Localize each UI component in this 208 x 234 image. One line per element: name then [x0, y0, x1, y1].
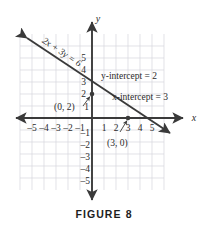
x-tick--5: –5 — [26, 123, 37, 133]
x-tick-labels-positive: 1 2 3 4 5 — [102, 123, 155, 133]
coordinate-graph: y x –5 –4 –3 –2 –1 1 2 3 4 5 5 4 3 2 1 –… — [0, 0, 208, 234]
x-tick-3: 3 — [126, 123, 131, 133]
x-tick--2: –2 — [62, 123, 73, 133]
point-label-3-0: (3, 0) — [107, 138, 128, 149]
y-tick-labels-negative: –1 –2 –3 –4 –5 — [80, 128, 91, 186]
x-tick-5: 5 — [150, 123, 155, 133]
y-tick-3: 3 — [81, 77, 86, 87]
x-tick-4: 4 — [138, 123, 143, 133]
x-axis-label: x — [191, 112, 197, 123]
y-tick--5: –5 — [80, 176, 91, 186]
y-tick--4: –4 — [80, 164, 91, 174]
y-intercept-annotation: y-intercept = 2 — [101, 71, 157, 81]
figure-container: y x –5 –4 –3 –2 –1 1 2 3 4 5 5 4 3 2 1 –… — [0, 0, 208, 234]
x-tick-labels-negative: –5 –4 –3 –2 –1 — [26, 123, 85, 133]
point-marker-3-0 — [126, 116, 131, 121]
y-tick--2: –2 — [80, 140, 91, 150]
point-marker-0-2 — [90, 92, 95, 97]
x-tick--4: –4 — [38, 123, 49, 133]
x-tick-1: 1 — [102, 123, 107, 133]
x-tick-2: 2 — [114, 123, 119, 133]
x-tick--3: –3 — [50, 123, 61, 133]
y-axis-label: y — [95, 13, 101, 24]
y-tick-2: 2 — [81, 89, 86, 99]
y-tick--3: –3 — [80, 152, 91, 162]
axes — [16, 22, 183, 200]
point-label-0-2: (0, 2) — [54, 102, 75, 113]
y-tick--1: –1 — [80, 128, 91, 138]
figure-caption: FIGURE 8 — [0, 208, 208, 220]
x-intercept-annotation: x-intercept = 3 — [112, 92, 168, 102]
